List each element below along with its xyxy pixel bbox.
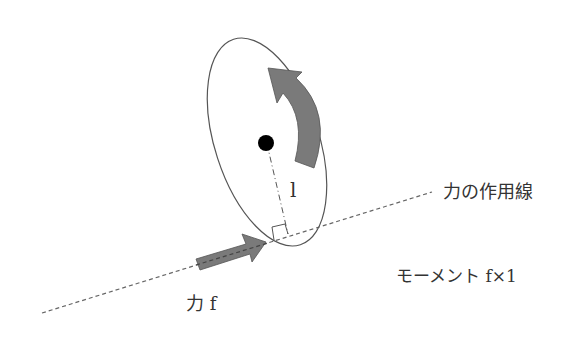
moment-diagram bbox=[0, 0, 582, 350]
force-label: 力 f bbox=[186, 289, 216, 315]
lever-arm-label: l bbox=[290, 178, 296, 202]
pivot-point bbox=[258, 135, 274, 151]
moment-label: モーメント f×1 bbox=[396, 262, 517, 287]
force-arrow-icon bbox=[196, 234, 266, 270]
lever-arm-line bbox=[267, 144, 288, 234]
line-of-action-label: 力の作用線 bbox=[443, 177, 533, 203]
moment-arrow-icon bbox=[268, 68, 320, 168]
